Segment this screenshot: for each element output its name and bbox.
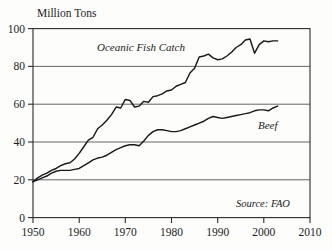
ytick-label-80: 80 bbox=[14, 60, 26, 72]
x-axis-tick-labels: 1950 1960 1970 1980 1990 2000 2010 bbox=[22, 226, 322, 238]
annotation-oceanic-fish-catch: Oceanic Fish Catch bbox=[97, 41, 185, 53]
xtick-label-1990: 1990 bbox=[206, 226, 229, 238]
xtick-label-1960: 1960 bbox=[68, 226, 91, 238]
ytick-label-60: 60 bbox=[14, 98, 26, 110]
xtick-label-2010: 2010 bbox=[299, 226, 322, 238]
x-axis-tickmarks bbox=[33, 218, 310, 223]
xtick-label-1980: 1980 bbox=[160, 226, 183, 238]
series-line-beef bbox=[33, 106, 278, 182]
ytick-label-20: 20 bbox=[14, 174, 26, 186]
line-chart: Million Tons 100 80 60 40 20 0 1950 1960… bbox=[0, 0, 332, 250]
xtick-label-2000: 2000 bbox=[252, 226, 275, 238]
y-axis-tickmarks bbox=[28, 29, 33, 218]
y-axis-title: Million Tons bbox=[37, 7, 97, 19]
ytick-label-40: 40 bbox=[14, 136, 26, 148]
ytick-label-0: 0 bbox=[19, 212, 25, 224]
annotation-beef: Beef bbox=[258, 119, 279, 131]
xtick-label-1970: 1970 bbox=[114, 226, 137, 238]
chart-page: Million Tons 100 80 60 40 20 0 1950 1960… bbox=[0, 0, 332, 250]
y-axis-tick-labels: 100 80 60 40 20 0 bbox=[8, 23, 26, 224]
xtick-label-1950: 1950 bbox=[22, 226, 45, 238]
annotation-source: Source: FAO bbox=[236, 198, 290, 209]
series-line-oceanic-fish-catch bbox=[33, 39, 278, 182]
ytick-label-100: 100 bbox=[8, 23, 26, 35]
